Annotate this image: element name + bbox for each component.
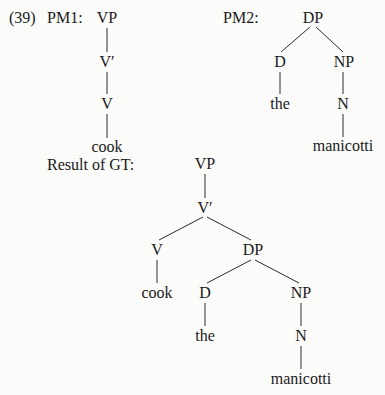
pm2-leaf-manicotti: manicotti — [313, 137, 373, 155]
result-leaf-manicotti: manicotti — [271, 370, 331, 388]
pm1-leaf-cook: cook — [91, 138, 122, 156]
result-node-n: N — [295, 327, 307, 345]
pm2-leaf-the: the — [270, 95, 290, 113]
result-node-np: NP — [291, 284, 311, 302]
result-leaf-the: the — [195, 327, 215, 345]
result-label: Result of GT: — [47, 156, 134, 174]
pm1-label: PM1: — [47, 9, 83, 27]
pm1-node-vp: VP — [97, 9, 117, 27]
result-node-d: D — [199, 284, 211, 302]
result-leaf-cook: cook — [141, 284, 172, 302]
pm2-node-np: NP — [334, 53, 354, 71]
tree-edges — [0, 0, 385, 395]
pm2-node-dp: DP — [303, 9, 323, 27]
result-node-dp: DP — [243, 241, 263, 259]
result-node-vbar: V′ — [197, 199, 212, 217]
pm1-node-v: V — [101, 95, 113, 113]
pm1-node-vbar: V′ — [99, 53, 114, 71]
result-node-vp: VP — [195, 155, 215, 173]
pm2-node-n: N — [337, 95, 349, 113]
pm2-node-d: D — [274, 53, 286, 71]
example-number: (39) — [9, 9, 36, 27]
pm2-label: PM2: — [223, 9, 259, 27]
result-node-v: V — [151, 241, 163, 259]
